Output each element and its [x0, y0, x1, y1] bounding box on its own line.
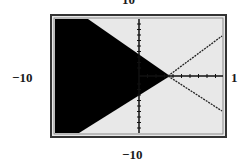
- graph-window: [0, 0, 240, 165]
